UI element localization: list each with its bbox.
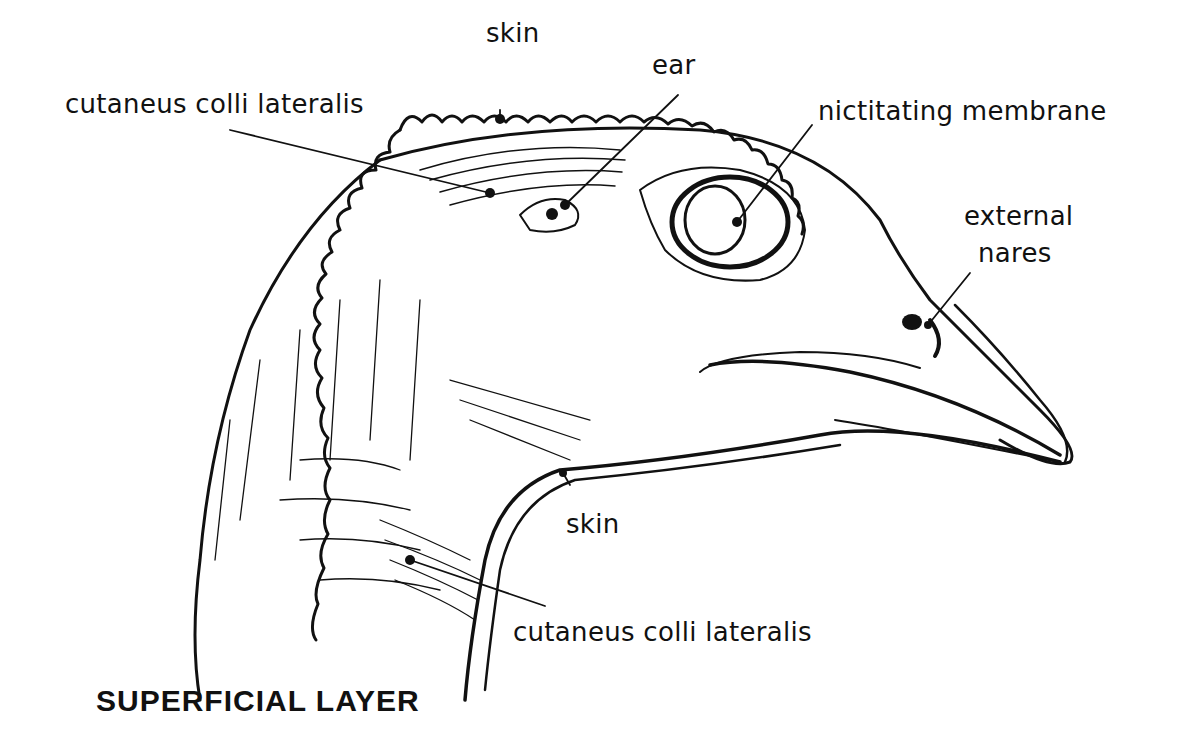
neck-skin-outline [312, 130, 400, 640]
label-nares: nares [978, 240, 1052, 266]
lower-mandible-line [835, 420, 1050, 460]
beak-ridge [955, 305, 1067, 462]
label-nictitating-membrane: nictitating membrane [818, 98, 1106, 124]
label-skin-bottom: skin [566, 511, 620, 537]
anatomy-figure: skin cutaneus colli lateralis ear nictit… [0, 0, 1178, 756]
label-external: external [964, 203, 1073, 229]
label-cutaneus-colli-lateralis-top: cutaneus colli lateralis [65, 91, 364, 117]
neck-hatching [215, 280, 590, 620]
label-skin-top: skin [486, 20, 540, 46]
mouth-line [710, 361, 1060, 455]
label-ear: ear [652, 52, 696, 78]
throat-outline [465, 431, 1060, 700]
neck-back-outline [195, 160, 380, 700]
label-cutaneus-colli-lateralis-bottom: cutaneus colli lateralis [513, 619, 812, 645]
ear-dot [546, 208, 558, 220]
nostril-shape [902, 314, 922, 330]
figure-title: SUPERFICIAL LAYER [96, 684, 420, 718]
